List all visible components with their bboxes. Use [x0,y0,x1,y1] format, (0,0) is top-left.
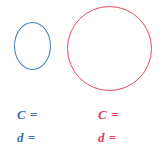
worksheet-canvas: C = d = C = d = [0,0,164,156]
large-red-circle-figure [67,6,152,91]
left-answer-group: C = d = [17,103,38,149]
right-circumference-label: C = [98,103,119,126]
left-diameter-label: d = [17,126,38,149]
left-circumference-label: C = [17,103,38,126]
small-blue-circle-figure [14,22,51,70]
right-answer-group: C = d = [98,103,119,149]
right-diameter-label: d = [98,126,119,149]
